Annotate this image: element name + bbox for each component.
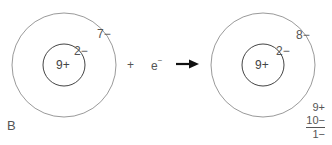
left-nucleus-charge: 9+ <box>56 59 70 71</box>
electron-charge: − <box>158 56 163 65</box>
right-inner-shell-charge: 2− <box>276 45 290 57</box>
plus-sign: + <box>127 59 134 71</box>
charge-sum: 9+ 10− 1− <box>299 101 325 141</box>
proton-charge: 9+ <box>299 101 325 114</box>
electron-symbol: e− <box>151 59 162 72</box>
left-inner-shell-charge: 2− <box>74 45 88 57</box>
net-charge: 1− <box>299 128 325 141</box>
right-nucleus-charge: 9+ <box>255 59 269 71</box>
atom-diagram-canvas <box>0 0 332 145</box>
panel-label: B <box>7 119 16 132</box>
left-outer-shell-charge: 7− <box>97 28 111 40</box>
right-arrow-icon <box>176 60 199 69</box>
right-outer-shell-charge: 8− <box>296 29 310 41</box>
electron-letter: e <box>151 59 158 73</box>
electron-total-charge: 10− <box>306 114 325 128</box>
